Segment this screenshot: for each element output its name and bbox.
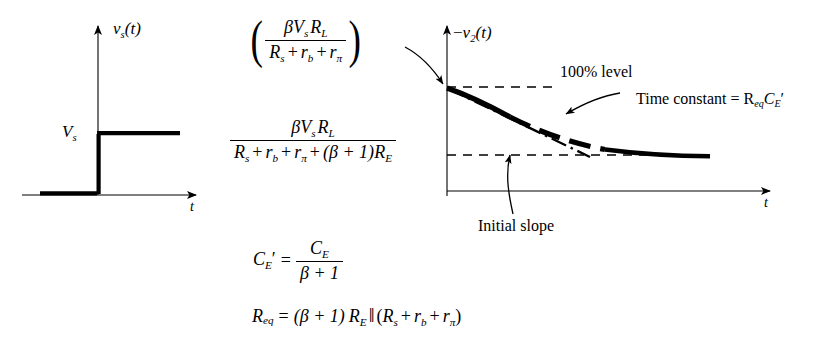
fraction-denominator: Rs+rb+rπ+(β + 1)RE — [230, 141, 396, 164]
rpi-symbol: r — [443, 306, 450, 326]
time-constant-sub: eq — [754, 98, 764, 109]
ce-prime-lhs: CE′ — [253, 250, 276, 271]
ce-numerator-subscript: E — [322, 248, 329, 260]
req-equation: Req=(β + 1)RE‖(Rs+rb+rπ) — [252, 305, 461, 328]
initial-amplitude-fraction: βVsRL Rs+rb+rπ — [265, 18, 346, 64]
req-subscript: eq — [263, 314, 274, 326]
time-constant-text: Time constant = R — [636, 90, 754, 107]
rl-symbol: R — [310, 17, 321, 37]
rs-subscript: s — [245, 152, 249, 164]
decay-curve-dashed-middle — [510, 117, 605, 150]
plus-1: + — [401, 306, 411, 326]
beta-plus-one-group: (β + 1) — [323, 142, 374, 162]
vs-symbol: V — [300, 117, 311, 137]
left-plot-x-axis-label: t — [190, 200, 194, 214]
time-constant-leader-arrow — [566, 93, 620, 114]
vs-subscript: s — [304, 27, 308, 39]
plus-2: + — [430, 306, 440, 326]
rs-subscript: s — [393, 316, 397, 328]
re-symbol: R — [349, 306, 360, 326]
ce-subscript: E — [265, 259, 272, 271]
ce-numerator-symbol: C — [310, 238, 322, 258]
rpi-symbol: r — [330, 42, 337, 62]
rl-subscript: L — [321, 27, 327, 39]
time-constant-label: Time constant = ReqCE′ — [636, 91, 784, 110]
ce-fraction: CE β + 1 — [296, 239, 343, 282]
plot-vector-layer — [0, 0, 828, 357]
re-symbol: R — [374, 142, 385, 162]
right-plot-x-axis-label: t — [764, 196, 768, 210]
parallel-operator: ‖ — [369, 304, 375, 326]
figure-canvas: vv_s(t)s(t) Vs t −v2(t) 100% level Time … — [0, 0, 828, 357]
fraction-denominator: β + 1 — [296, 262, 343, 282]
final-amplitude-formula: βVsRL Rs+rb+rπ+(β + 1)RE — [230, 118, 396, 164]
final-amplitude-fraction: βVsRL Rs+rb+rπ+(β + 1)RE — [230, 118, 396, 164]
re-subscript: E — [360, 316, 367, 328]
beta-symbol: β — [291, 117, 300, 137]
re-subscript: E — [385, 152, 392, 164]
rpi-subscript: π — [337, 52, 343, 64]
rb-symbol: r — [301, 42, 308, 62]
rb-subscript: b — [308, 52, 314, 64]
beta-symbol: β — [284, 17, 293, 37]
fraction-numerator: βVsRL — [265, 18, 346, 41]
close-paren: ) — [455, 306, 461, 326]
decay-curve-solid-tail — [605, 150, 710, 157]
ce-symbol: C — [253, 249, 265, 269]
left-plot-step-level-label: Vs — [62, 123, 77, 142]
beta-plus-one-factor: (β + 1) — [294, 306, 345, 326]
equals-sign: = — [281, 251, 291, 269]
vs-subscript: s — [311, 127, 315, 139]
fraction-numerator: CE — [296, 239, 343, 262]
initial-amplitude-formula: ( βVsRL Rs+rb+rπ ) — [248, 18, 364, 64]
plus-3: + — [310, 142, 320, 162]
rpi-subscript: π — [301, 152, 307, 164]
rl-symbol: R — [318, 117, 329, 137]
time-constant-prime: ′ — [781, 90, 785, 107]
req-symbol: R — [252, 306, 263, 326]
ce-prime-mark: ′ — [272, 249, 276, 269]
plus-2: + — [281, 142, 291, 162]
initial-slope-label: Initial slope — [478, 218, 554, 234]
vs-symbol: V — [293, 17, 304, 37]
plus-1: + — [288, 42, 298, 62]
rb-symbol: r — [266, 142, 273, 162]
initial-amplitude-leader-arrow — [405, 47, 443, 84]
rb-subscript: b — [273, 152, 279, 164]
plus-1: + — [252, 142, 262, 162]
rs-symbol: R — [382, 306, 393, 326]
left-plot-y-axis-label: vv_s(t)s(t) — [113, 20, 141, 39]
fraction-numerator: βVsRL — [230, 118, 396, 141]
initial-slope-leader-arrow — [508, 155, 513, 214]
rb-subscript: b — [421, 316, 427, 328]
rb-symbol: r — [414, 306, 421, 326]
decay-curve-solid-head — [447, 88, 510, 117]
time-constant-tail: C — [764, 90, 775, 107]
rs-subscript: s — [280, 52, 284, 64]
left-plot-axes — [22, 26, 196, 195]
hundred-percent-level-label: 100% level — [560, 64, 632, 80]
open-paren: ( — [250, 18, 262, 63]
close-paren: ) — [349, 18, 361, 63]
right-plot-y-axis-label: −v2(t) — [453, 24, 492, 43]
equals-sign: = — [279, 306, 289, 326]
rs-symbol: R — [269, 42, 280, 62]
plus-2: + — [316, 42, 326, 62]
left-plot-step-trace — [40, 133, 180, 194]
fraction-denominator: Rs+rb+rπ — [265, 41, 346, 64]
ce-prime-equation: CE′ = CE β + 1 — [253, 239, 343, 282]
rs-symbol: R — [234, 142, 245, 162]
rl-subscript: L — [329, 127, 335, 139]
